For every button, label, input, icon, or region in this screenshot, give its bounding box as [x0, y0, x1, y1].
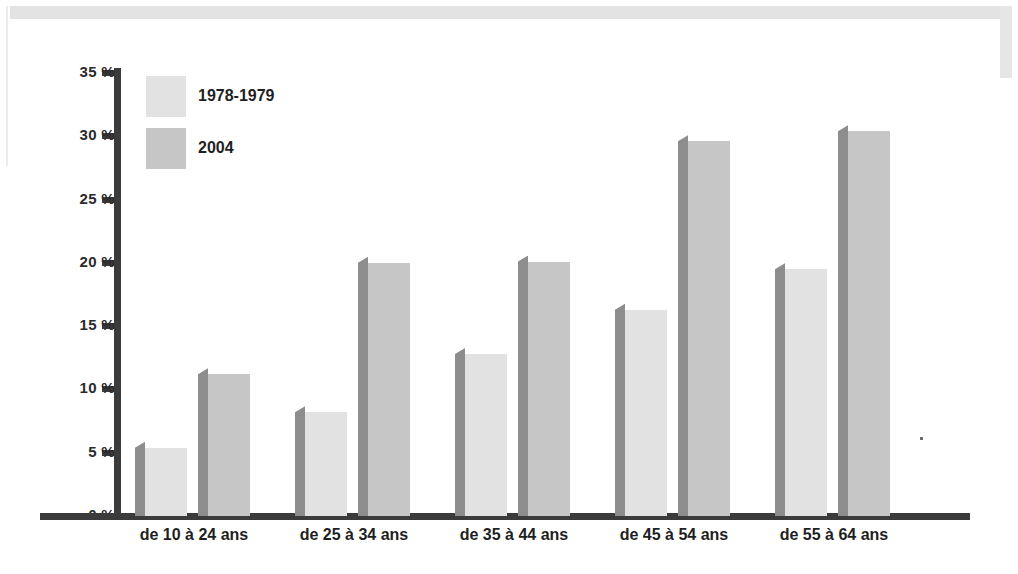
x-axis-category-label: de 10 à 24 ans [119, 526, 269, 544]
bar-3d-shadow [358, 257, 368, 516]
y-axis-tick-label: 15 % [59, 316, 115, 333]
bar-face [145, 448, 187, 516]
bar-face [465, 354, 507, 516]
x-axis-category-label: de 55 à 64 ans [759, 526, 909, 544]
legend-label-1978-1979: 1978-1979 [198, 87, 275, 105]
legend-label-2004: 2004 [198, 139, 234, 157]
bar-series-a [625, 310, 667, 516]
bar-chart-plot-area: 0 %5 %10 %15 %20 %25 %30 %35 % de 10 à 2… [0, 0, 1018, 574]
bar-face [368, 263, 410, 516]
bar-3d-shadow [135, 442, 145, 516]
bar-3d-shadow [775, 263, 785, 516]
chart-page: 0 %5 %10 %15 %20 %25 %30 %35 % de 10 à 2… [0, 0, 1018, 574]
bar-3d-shadow [518, 256, 528, 516]
bar-series-a [145, 448, 187, 516]
bar-face [528, 262, 570, 516]
legend-swatch-icon-2004 [146, 128, 186, 169]
x-axis-category-label: de 25 à 34 ans [279, 526, 429, 544]
bar-series-b [208, 374, 250, 516]
y-axis-tick-label: 30 % [59, 126, 115, 143]
bar-3d-shadow [295, 406, 305, 516]
x-axis-category-label: de 45 à 54 ans [599, 526, 749, 544]
y-axis-tick-label: 25 % [59, 190, 115, 207]
bar-3d-shadow [198, 368, 208, 516]
bar-3d-shadow [455, 348, 465, 516]
bar-face [688, 141, 730, 516]
bar-series-a [785, 269, 827, 516]
y-axis-tick-label: 20 % [59, 253, 115, 270]
y-axis-tick-label: 35 % [59, 63, 115, 80]
y-axis-line [114, 68, 121, 519]
bar-face [625, 310, 667, 516]
bar-series-a [305, 412, 347, 516]
y-axis-tick-label: 10 % [59, 379, 115, 396]
bar-series-b [368, 263, 410, 516]
bar-face [785, 269, 827, 516]
bar-face [208, 374, 250, 516]
y-axis-tick-label: 5 % [59, 443, 115, 460]
legend-swatch-icon-1978-1979 [146, 76, 186, 117]
bar-series-a [465, 354, 507, 516]
bar-series-b [848, 131, 890, 516]
bar-3d-shadow [615, 304, 625, 516]
bar-face [848, 131, 890, 516]
x-axis-category-label: de 35 à 44 ans [439, 526, 589, 544]
bar-3d-shadow [678, 135, 688, 516]
bar-series-b [528, 262, 570, 516]
bar-face [305, 412, 347, 516]
bar-series-b [688, 141, 730, 516]
bar-3d-shadow [838, 125, 848, 516]
